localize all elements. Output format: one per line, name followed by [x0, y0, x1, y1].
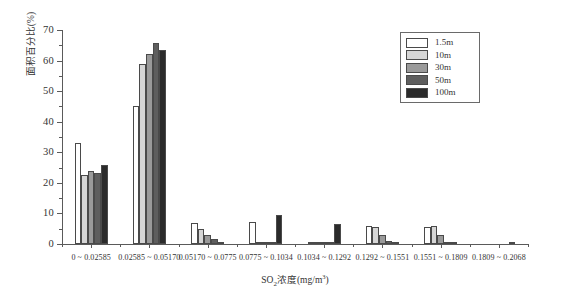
legend-label: 100m	[435, 87, 456, 98]
x-axis-boundary-tick	[528, 244, 529, 247]
y-minor-tick-mark	[59, 168, 62, 169]
y-tick-mark	[57, 61, 62, 62]
bar	[334, 224, 341, 244]
bar	[133, 106, 140, 244]
y-tick-label: 70	[14, 22, 54, 37]
bar	[444, 242, 451, 244]
y-minor-tick-mark	[59, 137, 62, 138]
x-axis-tick	[499, 244, 500, 248]
bar	[159, 50, 166, 244]
bar	[211, 239, 218, 244]
legend-label: 50m	[435, 75, 451, 86]
y-minor-tick-mark	[59, 229, 62, 230]
bar	[94, 173, 101, 244]
legend-item: 50m	[406, 74, 475, 86]
y-tick-label: 20	[14, 175, 54, 190]
bar	[88, 171, 95, 244]
legend-swatch	[406, 88, 428, 98]
y-tick-mark	[57, 213, 62, 214]
legend-label: 30m	[435, 62, 451, 73]
x-tick-label: 0.1809 ~ 0.2068	[472, 252, 526, 263]
bar	[431, 226, 438, 244]
bar	[437, 235, 444, 244]
x-axis-boundary-tick	[412, 244, 413, 247]
bar	[101, 165, 108, 244]
chart-legend: 1.5m10m30m50m100m	[400, 32, 480, 103]
x-tick-label: 0.0775 ~ 0.1034	[239, 252, 293, 263]
legend-swatch	[406, 50, 428, 60]
legend-swatch	[406, 63, 428, 73]
bar	[314, 242, 321, 244]
x-tick-label: 0.1034 ~ 0.1292	[297, 252, 351, 263]
x-axis-tick	[441, 244, 442, 248]
legend-item: 10m	[406, 49, 475, 61]
bar	[379, 235, 386, 244]
y-tick-label: 60	[14, 53, 54, 68]
bar	[327, 242, 334, 244]
bar	[153, 43, 160, 244]
legend-swatch	[406, 38, 428, 48]
bar	[366, 226, 373, 244]
x-tick-label: 0.1292 ~ 0.1551	[355, 252, 409, 263]
bar	[146, 54, 153, 244]
y-tick-mark	[57, 122, 62, 123]
x-axis-title: SO2浓度(mg/m3)	[62, 272, 528, 288]
y-minor-tick-mark	[59, 106, 62, 107]
x-axis-tick	[208, 244, 209, 248]
x-axis-tick	[91, 244, 92, 248]
bar	[204, 235, 211, 244]
x-axis-boundary-tick	[295, 244, 296, 247]
x-axis-boundary-tick	[237, 244, 238, 247]
bar	[424, 227, 431, 244]
y-tick-label: 50	[14, 83, 54, 98]
legend-item: 100m	[406, 87, 475, 99]
x-tick-label: 0.1551 ~ 0.1809	[414, 252, 468, 263]
x-tick-label: 0.02585 ~ 0.05170	[118, 252, 180, 263]
bar	[191, 223, 198, 244]
y-minor-tick-mark	[59, 76, 62, 77]
legend-label: 1.5m	[435, 37, 453, 48]
x-axis-tick	[266, 244, 267, 248]
bar	[276, 215, 283, 244]
legend-item: 30m	[406, 62, 475, 74]
x-axis-tick	[324, 244, 325, 248]
bar	[249, 222, 256, 244]
legend-item: 1.5m	[406, 37, 475, 49]
y-tick-label: 10	[14, 205, 54, 220]
x-axis-boundary-tick	[179, 244, 180, 247]
bar	[256, 242, 263, 244]
bar	[372, 227, 379, 244]
bar	[308, 242, 315, 244]
bar	[81, 175, 88, 244]
y-tick-label: 0	[14, 236, 54, 251]
bar	[392, 242, 399, 244]
x-axis-boundary-tick	[62, 244, 63, 247]
bar	[198, 229, 205, 244]
bar	[509, 242, 516, 244]
legend-swatch	[406, 75, 428, 85]
x-axis-tick	[382, 244, 383, 248]
bar	[386, 241, 393, 244]
y-tick-mark	[57, 152, 62, 153]
y-tick-mark	[57, 30, 62, 31]
x-axis-boundary-tick	[353, 244, 354, 247]
bar	[139, 64, 146, 244]
y-minor-tick-mark	[59, 198, 62, 199]
legend-label: 10m	[435, 50, 451, 61]
x-tick-label: 0 ~ 0.02585	[71, 252, 110, 263]
bar-chart-figure: 面积百分比(%) 0102030405060700 ~ 0.025850.025…	[0, 0, 566, 292]
x-axis-boundary-tick	[120, 244, 121, 247]
y-tick-label: 40	[14, 114, 54, 129]
y-tick-mark	[57, 91, 62, 92]
x-axis-boundary-tick	[470, 244, 471, 247]
x-axis-tick	[149, 244, 150, 248]
y-tick-label: 30	[14, 144, 54, 159]
bar	[75, 143, 82, 244]
bar	[451, 242, 458, 244]
bar	[269, 242, 276, 244]
x-tick-label: 0.05170 ~ 0.0775	[179, 252, 237, 263]
y-minor-tick-mark	[59, 45, 62, 46]
bar	[218, 242, 225, 244]
y-tick-mark	[57, 183, 62, 184]
